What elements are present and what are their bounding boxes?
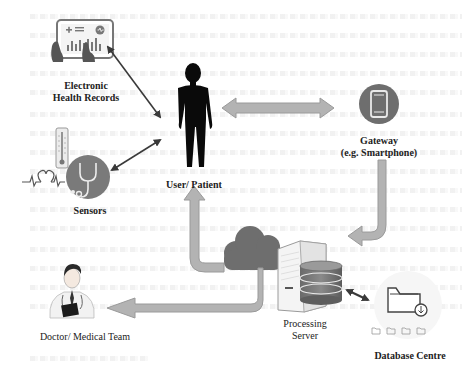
cloud-user-arrow: [184, 186, 224, 272]
sensors-label: Sensors: [60, 205, 120, 217]
server-label-line2: Server: [270, 330, 340, 342]
ehr-tablet-icon: [51, 20, 113, 62]
user-gateway-arrow: [222, 98, 334, 118]
ehr-label-line1: Electronic: [48, 80, 124, 92]
doctor-icon: [50, 264, 94, 318]
human-silhouette-icon: [178, 63, 212, 167]
server-label-line1: Processing: [270, 318, 340, 330]
stethoscope-icon: [66, 155, 110, 199]
ehr-label-line2: Health Records: [48, 92, 124, 104]
server-database-link-arrow: [347, 290, 368, 300]
heartbeat-icon: [22, 170, 65, 186]
database-label: Database Centre: [360, 350, 460, 362]
thermometer-icon: [56, 128, 68, 168]
sensors-user-link-arrow: [112, 140, 160, 170]
gateway-label-line2: (e.g. Smartphone): [334, 147, 424, 159]
cloud-doctor-arrow: [107, 268, 263, 318]
smartphone-icon: [359, 84, 399, 124]
diagram-canvas: [0, 0, 465, 371]
user-label: User/ Patient: [160, 179, 228, 191]
doctor-label: Doctor/ Medical Team: [30, 331, 140, 343]
ehr-label: Electronic Health Records: [48, 80, 124, 104]
gateway-label: Gateway (e.g. Smartphone): [334, 135, 424, 159]
database-centre-icon: [372, 271, 442, 339]
cloud-icon: [224, 226, 282, 270]
gateway-server-arrow: [348, 160, 386, 246]
gateway-label-line1: Gateway: [334, 135, 424, 147]
server-database-icon: [278, 241, 342, 312]
server-label: Processing Server: [270, 318, 340, 342]
